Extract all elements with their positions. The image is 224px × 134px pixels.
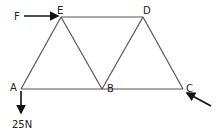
label-c: C xyxy=(186,83,193,94)
label-load: 25N xyxy=(12,119,32,130)
force-c-arrow xyxy=(187,93,211,106)
label-a: A xyxy=(10,82,17,93)
label-f: F xyxy=(14,11,20,22)
label-d: D xyxy=(143,5,151,16)
member-ae xyxy=(21,17,61,89)
member-dc xyxy=(143,17,183,89)
truss-diagram: F E D A B C 25N xyxy=(0,0,224,134)
label-e: E xyxy=(57,5,63,16)
label-b: B xyxy=(107,83,114,94)
truss-members xyxy=(21,17,183,89)
member-eb xyxy=(61,17,102,89)
member-bd xyxy=(102,17,143,89)
labels: F E D A B C 25N xyxy=(10,5,193,130)
